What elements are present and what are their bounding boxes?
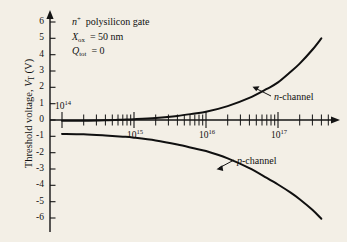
p-channel-curve — [62, 134, 321, 219]
y-tick-label-neg1: -1 — [22, 131, 44, 141]
y-tick-label-0: 0 — [22, 115, 44, 125]
y-tick-label-neg4: -4 — [22, 180, 44, 190]
x-tick-label-1e14: 1014 — [55, 100, 71, 112]
plot-canvas — [0, 0, 347, 242]
y-tick-label-6: 6 — [22, 17, 44, 27]
y-tick-label-5: 5 — [22, 33, 44, 43]
y-axis-title-subscript: T — [28, 76, 36, 80]
annotation-total-charge: Qtot = 0 — [72, 44, 149, 58]
y-tick-label-3: 3 — [22, 66, 44, 76]
y-tick-label-neg6: -6 — [22, 213, 44, 223]
p-channel-label: p-channel — [237, 155, 276, 166]
y-tick-label-4: 4 — [22, 50, 44, 60]
annotation-gate-material: n+ polysilicon gate — [72, 14, 149, 30]
y-tick-label-2: 2 — [22, 82, 44, 92]
y-tick-label-neg5: -5 — [22, 197, 44, 207]
n-channel-label: n-channel — [274, 91, 313, 102]
x-tick-label-1e15: 1015 — [127, 129, 143, 141]
y-tick-label-neg2: -2 — [22, 148, 44, 158]
y-tick-label-neg3: -3 — [22, 164, 44, 174]
x-axis-arrowhead — [331, 116, 340, 123]
annotation-oxide-thickness: Xox = 50 nm — [72, 30, 149, 44]
x-tick-label-1e16: 1016 — [199, 129, 215, 141]
parameter-annotation-block: n+ polysilicon gate Xox = 50 nm Qtot = 0 — [72, 14, 149, 58]
threshold-voltage-figure: Threshold voltage, VT (V) 6 5 4 3 2 1 0 … — [0, 0, 347, 242]
x-tick-label-1e17: 1017 — [271, 129, 287, 141]
p-channel-leader — [217, 160, 235, 171]
y-axis-group — [46, 10, 53, 232]
y-tick-label-1: 1 — [22, 99, 44, 109]
y-axis-arrowhead — [46, 10, 53, 19]
